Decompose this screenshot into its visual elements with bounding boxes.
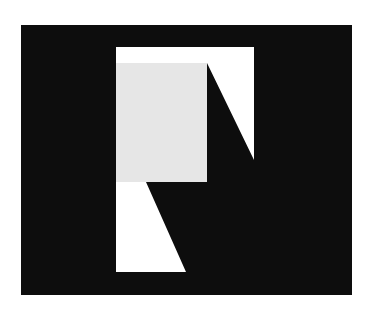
abstract-artwork bbox=[0, 0, 374, 317]
gray-block bbox=[116, 63, 207, 182]
